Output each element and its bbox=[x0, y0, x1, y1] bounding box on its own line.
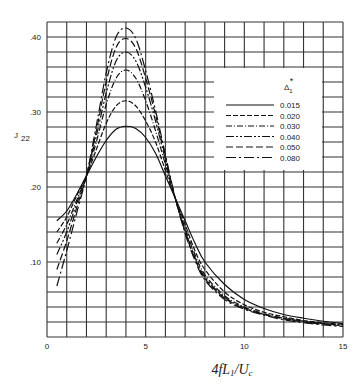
legend-entry: 0.050 bbox=[280, 143, 301, 152]
chart: 051015.10.20.30.40J224fL1/UcΔ1*0.0150.02… bbox=[0, 0, 364, 386]
y-tick-label: .10 bbox=[30, 258, 42, 267]
legend: Δ1*0.0150.0200.0300.0400.0500.080 bbox=[214, 68, 322, 170]
x-tick-label: 0 bbox=[45, 342, 50, 351]
legend-entry: 0.030 bbox=[280, 122, 301, 131]
x-tick-label: 5 bbox=[143, 342, 148, 351]
svg-text:22: 22 bbox=[21, 134, 30, 143]
y-tick-label: .30 bbox=[30, 108, 42, 117]
y-tick-label: .20 bbox=[30, 183, 42, 192]
x-tick-label: 10 bbox=[240, 342, 249, 351]
legend-entry: 0.020 bbox=[280, 112, 301, 121]
y-axis-label: J bbox=[14, 131, 18, 140]
x-tick-label: 15 bbox=[339, 342, 348, 351]
x-axis-label: 4fL1/Uc bbox=[211, 362, 252, 378]
legend-entry: 0.080 bbox=[280, 154, 301, 163]
legend-entry: 0.015 bbox=[280, 101, 301, 110]
y-tick-label: .40 bbox=[30, 33, 42, 42]
legend-entry: 0.040 bbox=[280, 133, 301, 142]
